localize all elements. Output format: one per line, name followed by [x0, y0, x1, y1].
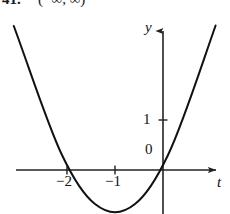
y-tick-label-1: 1: [143, 111, 151, 128]
x-axis-label: t: [217, 174, 221, 191]
origin-label: 0: [145, 141, 153, 158]
parabola-figure: y t −2 −1 0 1: [0, 0, 230, 214]
figure-page: 41. (−∞, ∞): [0, 0, 230, 214]
x-tick-label-minus-1: −1: [105, 173, 121, 190]
y-axis-label: y: [145, 19, 152, 36]
x-tick-label-minus-2: −2: [56, 173, 72, 190]
